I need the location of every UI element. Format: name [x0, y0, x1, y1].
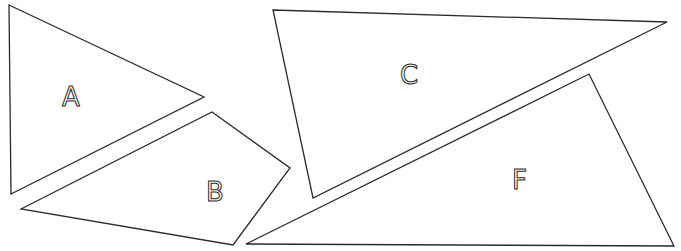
label-a: A: [62, 84, 80, 110]
shape-b: [21, 112, 290, 245]
label-c: C: [400, 62, 418, 88]
label-f: F: [512, 167, 527, 193]
diagram-canvas: [0, 0, 681, 251]
label-b: B: [206, 179, 224, 205]
shape-c: [273, 10, 667, 198]
shape-f: [246, 74, 674, 246]
